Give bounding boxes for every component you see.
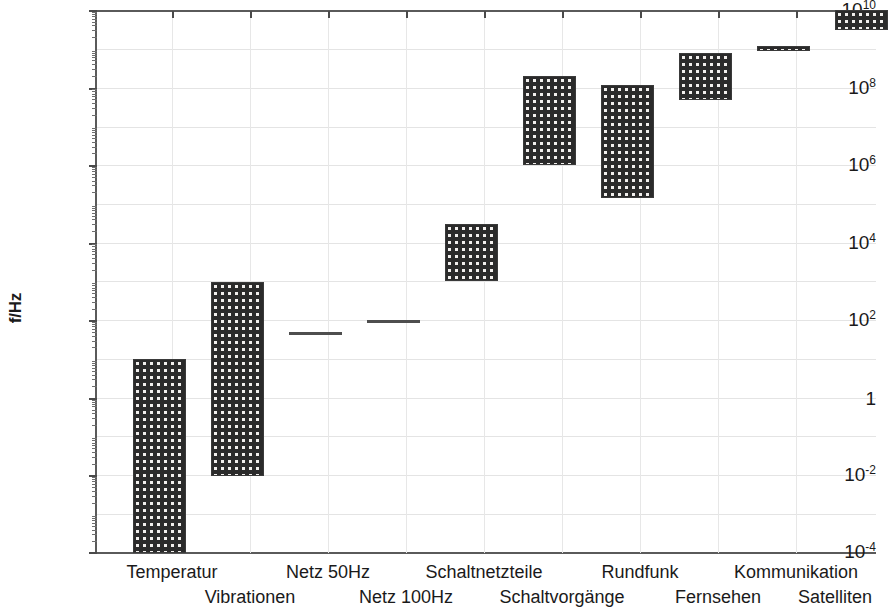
y-tick-minor [92,210,97,211]
y-tick-minor [92,371,97,372]
y-tick-minor [92,55,97,56]
y-tick-minor [92,523,97,524]
y-tick-minor [92,438,97,439]
y-tick-label-1e8: 108 [790,78,876,97]
gridline-horizontal [97,204,876,205]
y-tick-minor [92,224,97,225]
y-tick-minor [92,288,97,289]
y-tick-minor [92,518,97,519]
y-tick-minor [92,332,97,333]
y-tick-minor [92,51,97,52]
y-tick-minor [92,534,97,535]
y-tick-minor [92,16,97,17]
y-tick-minor [92,541,97,542]
y-tick-minor [92,153,97,154]
y-tick-minor [92,213,97,214]
y-tick-minor [92,404,97,405]
y-axis-title: f/Hz [6,278,26,338]
x-tick-top [406,11,408,18]
y-tick-minor [92,283,97,284]
y-tick-minor [92,169,97,170]
range-bar-schaltnetzteile [445,224,498,281]
y-tick-label-1e4: 104 [790,233,876,252]
y-tick-minor [92,324,97,325]
y-tick-minor [92,216,97,217]
range-bar-netz-50hz [289,332,342,335]
range-bar-vibrationen [211,282,264,476]
y-tick-minor [92,361,97,362]
y-tick-minor [92,484,97,485]
x-label-rundfunk: Rundfunk [561,563,719,582]
y-tick-label-1e2: 102 [790,310,876,329]
y-tick-minor [92,375,97,376]
y-tick-minor [92,329,97,330]
x-label-netz-50hz: Netz 50Hz [249,563,407,582]
y-tick-minor [92,19,97,20]
range-bar-fernsehen [679,53,732,100]
y-tick-minor [92,452,97,453]
y-tick-label-1: 1 [790,389,876,408]
y-tick-minor [92,443,97,444]
y-tick-minor [92,206,97,207]
y-tick-minor [92,244,97,245]
x-label-netz-100hz: Netz 100Hz [327,588,485,607]
y-tick-minor [92,25,97,26]
y-tick-minor [92,171,97,172]
y-tick-minor [92,413,97,414]
y-tick-minor [92,520,97,521]
gridline-vertical [406,12,407,553]
y-tick-minor [92,108,97,109]
y-tick-minor [92,516,97,517]
y-tick-minor [92,386,97,387]
y-tick-minor [92,246,97,247]
y-tick-minor [92,208,97,209]
y-tick-minor [92,138,97,139]
y-tick-minor [92,363,97,364]
y-tick-minor [92,410,97,411]
y-tick-minor [92,496,97,497]
y-tick-minor [92,128,97,129]
y-tick-minor [92,487,97,488]
y-tick-label-1e6: 106 [790,155,876,174]
y-tick-minor [92,293,97,294]
y-tick-minor [92,132,97,133]
y-tick-minor [92,167,97,168]
gridline-horizontal [97,165,876,166]
y-tick-minor [92,37,97,38]
range-bar-rundfunk [601,85,654,198]
range-bar-satelliten [835,10,888,30]
range-bar-netz-100hz [367,320,420,323]
y-tick-minor [92,464,97,465]
y-tick-minor [92,530,97,531]
y-tick-minor [92,400,97,401]
y-tick-minor [92,336,97,337]
y-tick-minor [92,440,97,441]
x-tick-top [250,11,252,18]
y-tick-minor [92,249,97,250]
x-label-satelliten: Satelliten [795,588,875,607]
y-tick-minor [92,53,97,54]
y-tick-minor [92,219,97,220]
y-tick-minor [92,402,97,403]
y-tick-minor [92,297,97,298]
y-tick-minor [92,89,97,90]
y-tick-minor [92,491,97,492]
y-tick-minor [92,270,97,271]
y-tick-minor [92,347,97,348]
y-tick-minor [92,326,97,327]
x-tick-top [640,11,642,18]
x-tick-top [562,11,564,18]
y-tick-minor [92,135,97,136]
y-tick-minor [92,526,97,527]
x-label-temperatur: Temperatur [93,563,251,582]
y-tick-minor [92,425,97,426]
x-axis-line [95,552,876,554]
y-tick-minor [92,503,97,504]
y-tick-minor [92,309,97,310]
x-tick-top [718,11,720,18]
y-tick-minor [92,231,97,232]
y-tick-minor [92,341,97,342]
x-label-vibrationen: Vibrationen [171,588,329,607]
y-tick-minor [92,96,97,97]
y-tick-minor [92,285,97,286]
